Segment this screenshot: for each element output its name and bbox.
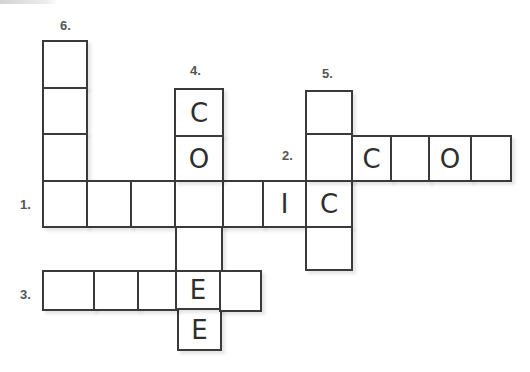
cell-letter: C xyxy=(320,189,338,219)
crossword-cell-a1-1[interactable] xyxy=(42,180,88,228)
crossword-cell-d5-1[interactable] xyxy=(305,90,353,135)
clue-number-1-across: 1. xyxy=(20,197,31,212)
cell-letter: I xyxy=(281,189,289,219)
crossword-cell-a2-5[interactable] xyxy=(470,135,512,182)
cell-letter: O xyxy=(440,144,460,174)
crossword-cell-a1-3[interactable] xyxy=(130,180,176,228)
cell-letter: C xyxy=(190,98,208,128)
cell-letter: C xyxy=(362,144,380,174)
cell-letter: O xyxy=(189,144,209,174)
clue-number-2-across: 2. xyxy=(282,148,293,163)
crossword-cell-d4-6[interactable]: E xyxy=(177,308,222,351)
crossword-cell-a3-3[interactable] xyxy=(137,270,177,311)
crossword-cell-a1-7[interactable]: C xyxy=(305,180,353,228)
scan-smudge xyxy=(0,0,58,4)
crossword-cell-d4-4[interactable] xyxy=(175,226,223,272)
crossword-cell-a2-2[interactable]: C xyxy=(351,135,392,182)
crossword-cell-a3-1[interactable] xyxy=(42,270,95,311)
crossword-cell-a2-1[interactable] xyxy=(305,133,353,182)
crossword-cell-a1-5[interactable] xyxy=(222,180,264,228)
cell-letter: E xyxy=(191,315,207,345)
cell-letter: E xyxy=(190,275,206,305)
crossword-cell-d4-1[interactable]: C xyxy=(174,88,224,137)
crossword-cell-a2-4[interactable]: O xyxy=(428,135,472,182)
crossword-cell-d5-4[interactable] xyxy=(305,226,353,271)
crossword-cell-a3-4[interactable]: E xyxy=(175,270,221,310)
crossword-cell-d4-2[interactable]: O xyxy=(174,135,224,182)
crossword-cell-d6-2[interactable] xyxy=(42,87,88,135)
crossword-cell-a3-5[interactable] xyxy=(219,270,262,312)
clue-number-6-down: 6. xyxy=(60,18,71,33)
crossword-cell-a2-3[interactable] xyxy=(390,135,430,182)
crossword-cell-a1-6[interactable]: I xyxy=(262,180,307,228)
crossword-cell-a1-2[interactable] xyxy=(86,180,132,228)
crossword-cell-a1-4[interactable] xyxy=(174,180,224,228)
clue-number-5-down: 5. xyxy=(322,66,333,81)
crossword-cell-a3-2[interactable] xyxy=(93,270,139,311)
clue-number-3-across: 3. xyxy=(20,287,31,302)
crossword-cell-d6-3[interactable] xyxy=(42,133,88,182)
crossword-cell-d6-1[interactable] xyxy=(42,40,88,89)
clue-number-4-down: 4. xyxy=(190,63,201,78)
